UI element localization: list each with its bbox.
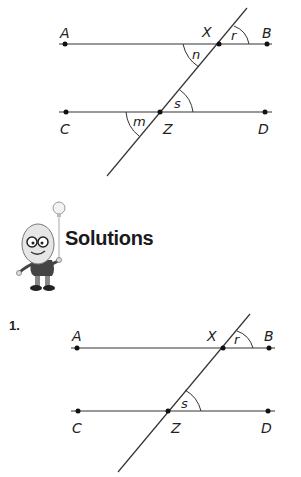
point-z-dot — [158, 110, 163, 115]
solution-1-diagram: A X B C Z D r s — [0, 300, 301, 477]
angle-label-r: r — [234, 332, 241, 347]
angle-label-s: s — [174, 96, 181, 111]
point-x-dot — [217, 42, 222, 47]
angle-label-r: r — [231, 28, 238, 43]
point-a-dot — [75, 346, 80, 351]
egg-character-with-lightbulb-icon — [8, 200, 78, 300]
label-z: Z — [170, 420, 181, 436]
label-z: Z — [162, 121, 173, 137]
transversal-line — [118, 314, 250, 472]
label-x: X — [206, 328, 217, 344]
label-d: D — [258, 121, 269, 137]
point-c-dot — [76, 409, 81, 414]
label-d: D — [261, 420, 272, 436]
label-a: A — [59, 25, 70, 41]
solutions-title: Solutions — [65, 227, 153, 250]
label-c: C — [72, 420, 82, 436]
label-c: C — [60, 121, 70, 137]
angle-label-m: m — [133, 114, 146, 129]
angle-label-n: n — [192, 47, 200, 62]
question-diagram: A X B C Z D r n s m — [0, 0, 301, 190]
point-d-dot — [263, 110, 268, 115]
label-b: B — [262, 25, 272, 41]
point-b-dot — [267, 346, 272, 351]
transversal-line — [107, 8, 247, 176]
angle-s-arc — [180, 90, 193, 112]
point-z-dot — [166, 409, 171, 414]
angle-r-arc — [237, 331, 253, 348]
label-b: B — [264, 328, 274, 344]
point-x-dot — [221, 346, 226, 351]
point-d-dot — [266, 409, 271, 414]
point-a-dot — [63, 42, 68, 47]
angle-label-s: s — [181, 396, 188, 411]
point-b-dot — [265, 42, 270, 47]
label-x: X — [201, 24, 212, 40]
label-a: A — [71, 328, 82, 344]
point-c-dot — [64, 110, 69, 115]
